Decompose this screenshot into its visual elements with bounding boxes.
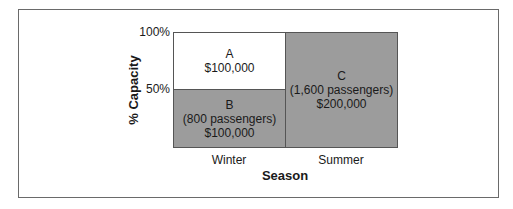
cell-b-passengers: (800 passengers)	[183, 112, 276, 126]
x-tick-summer: Summer	[291, 153, 391, 167]
cell-a: A $100,000	[174, 33, 286, 90]
cell-c-letter: C	[337, 69, 346, 83]
y-tick-100: 100%	[130, 25, 170, 39]
cell-c-revenue: $200,000	[316, 97, 366, 111]
cell-c: C (1,600 passengers) $200,000	[286, 33, 397, 147]
cell-a-revenue: $100,000	[204, 61, 254, 75]
capacity-grid: A $100,000 B (800 passengers) $100,000 C…	[173, 32, 398, 148]
cell-a-letter: A	[225, 47, 233, 61]
cell-c-passengers: (1,600 passengers)	[290, 83, 393, 97]
cell-b: B (800 passengers) $100,000	[174, 90, 286, 147]
y-tick-50: 50%	[130, 82, 170, 96]
cell-b-letter: B	[225, 98, 233, 112]
x-axis-label: Season	[225, 168, 345, 183]
x-tick-winter: Winter	[179, 153, 279, 167]
cell-b-revenue: $100,000	[204, 126, 254, 140]
